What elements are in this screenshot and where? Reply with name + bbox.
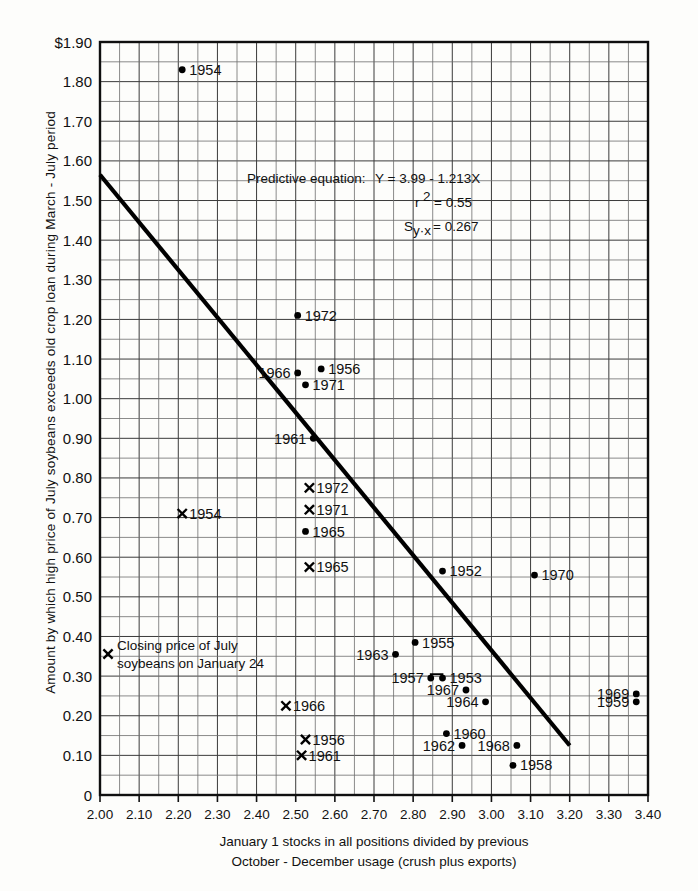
data-point-label: 1958 xyxy=(520,757,552,773)
scatter-plot: $1.901.801.701.601.501.401.301.201.101.0… xyxy=(0,0,698,891)
data-point-label: 1965 xyxy=(313,524,345,540)
x-tick-label: 2.80 xyxy=(400,807,426,822)
y-tick-label: 1.80 xyxy=(63,73,92,90)
y-tick-label: 0.50 xyxy=(63,588,92,605)
dot-marker xyxy=(531,572,538,579)
equation-intro: Predictive equation: xyxy=(247,171,366,186)
legend-line-2: soybeans on January 24 xyxy=(117,656,265,671)
data-point-label: 1956 xyxy=(313,732,345,748)
data-point-label: 1970 xyxy=(541,567,573,583)
caption-line-1: January 1 stocks in all positions divide… xyxy=(219,834,528,849)
data-point: 1958 xyxy=(510,757,553,773)
x-tick-label: 2.00 xyxy=(87,807,113,822)
cross-marker xyxy=(178,509,187,518)
y-tick-label: 0.30 xyxy=(63,668,92,685)
legend-annotation: Closing price of Julysoybeans on January… xyxy=(103,638,264,671)
data-point: 1965 xyxy=(305,559,349,575)
x-tick-label: 3.00 xyxy=(478,807,504,822)
data-point-label: 1964 xyxy=(446,694,478,710)
dot-marker xyxy=(510,762,517,769)
dot-marker xyxy=(459,742,466,749)
y-tick-label: 1.70 xyxy=(63,113,92,130)
x-tick-label: 2.30 xyxy=(204,807,230,822)
data-point: 1954 xyxy=(178,506,222,522)
syx-value: = 0.267 xyxy=(433,219,478,234)
y-tick-label: 0.10 xyxy=(63,747,92,764)
y-tick-label: 0.40 xyxy=(63,628,92,645)
data-point: 1963 xyxy=(356,647,399,663)
equation-formula: Y = 3.99 - 1.213X xyxy=(375,171,480,186)
cross-marker xyxy=(305,563,314,572)
data-point-label: 1954 xyxy=(189,62,221,78)
x-tick-label: 2.50 xyxy=(283,807,309,822)
y-tick-label: 1.30 xyxy=(63,271,92,288)
y-tick-label: $1.90 xyxy=(54,34,92,51)
x-tick-label: 3.20 xyxy=(557,807,583,822)
data-point: 1956 xyxy=(301,732,345,748)
data-point-label: 1952 xyxy=(450,563,482,579)
legend-cross-icon xyxy=(103,649,112,658)
y-tick-label: 0.20 xyxy=(63,707,92,724)
data-point: 1954 xyxy=(179,62,222,78)
dot-marker xyxy=(412,639,419,646)
x-axis-caption: January 1 stocks in all positions divide… xyxy=(219,834,528,869)
y-tick-label: 0.60 xyxy=(63,549,92,566)
data-point-label: 1962 xyxy=(423,738,455,754)
data-point: 1970 xyxy=(531,567,574,583)
x-tick-label: 3.30 xyxy=(596,807,622,822)
dot-marker xyxy=(633,691,640,698)
r-squared-value: = 0.55 xyxy=(434,195,472,210)
x-tick-label: 3.10 xyxy=(517,807,543,822)
data-point-label: 1966 xyxy=(258,365,290,381)
data-point: 1968 xyxy=(478,738,521,754)
data-point-label: 1954 xyxy=(189,506,221,522)
y-tick-label: 0.70 xyxy=(63,509,92,526)
chart-figure: Amount by which high price of July soybe… xyxy=(0,0,698,891)
y-tick-label: 1.10 xyxy=(63,351,92,368)
data-point-label: 1972 xyxy=(305,308,337,324)
caption-line-2: October - December usage (crush plus exp… xyxy=(231,854,516,869)
data-point: 1971 xyxy=(305,502,349,518)
y-tick-label: 1.50 xyxy=(63,192,92,209)
x-tick-label: 2.10 xyxy=(126,807,152,822)
data-point: 1972 xyxy=(294,308,337,324)
x-tick-label: 2.40 xyxy=(243,807,269,822)
x-tick-label: 2.60 xyxy=(322,807,348,822)
data-point-label: 1961 xyxy=(274,431,306,447)
dot-marker xyxy=(318,366,325,373)
data-point-label: 1957 xyxy=(391,670,423,686)
dot-marker xyxy=(513,742,520,749)
dot-marker xyxy=(294,370,301,377)
data-point-label: 1972 xyxy=(316,480,348,496)
x-tick-label: 2.90 xyxy=(439,807,465,822)
dot-marker xyxy=(302,528,309,535)
dot-marker xyxy=(482,698,489,705)
x-tick-label: 2.20 xyxy=(165,807,191,822)
data-point: 1966 xyxy=(281,698,325,714)
dot-marker xyxy=(392,651,399,658)
data-point-label: 1966 xyxy=(293,698,325,714)
data-point: 1971 xyxy=(302,377,345,393)
data-point-label: 1955 xyxy=(422,635,454,651)
cross-marker xyxy=(305,505,314,514)
data-point: 1972 xyxy=(305,480,349,496)
x-axis-tick-labels: 2.002.102.202.302.402.502.602.702.802.90… xyxy=(87,807,661,822)
data-point-label: 1961 xyxy=(309,748,341,764)
equation-annotation: Predictive equation:Y = 3.99 - 1.213Xr2=… xyxy=(247,171,480,238)
r-squared-label: r xyxy=(415,195,420,210)
cross-marker xyxy=(301,735,310,744)
x-tick-label: 3.40 xyxy=(635,807,661,822)
y-tick-label: 0.80 xyxy=(63,469,92,486)
cross-marker xyxy=(305,483,314,492)
data-point: 1964 xyxy=(446,694,489,710)
r-squared-exponent: 2 xyxy=(423,189,431,204)
syx-label: S xyxy=(404,219,413,234)
data-point-label: 1968 xyxy=(478,738,510,754)
data-point-label: 1965 xyxy=(316,559,348,575)
dot-marker xyxy=(463,687,470,694)
dot-marker xyxy=(179,66,186,73)
y-tick-label: 1.20 xyxy=(63,311,92,328)
y-tick-label: 0.90 xyxy=(63,430,92,447)
y-tick-label: 1.40 xyxy=(63,232,92,249)
data-point: 1955 xyxy=(412,635,455,651)
